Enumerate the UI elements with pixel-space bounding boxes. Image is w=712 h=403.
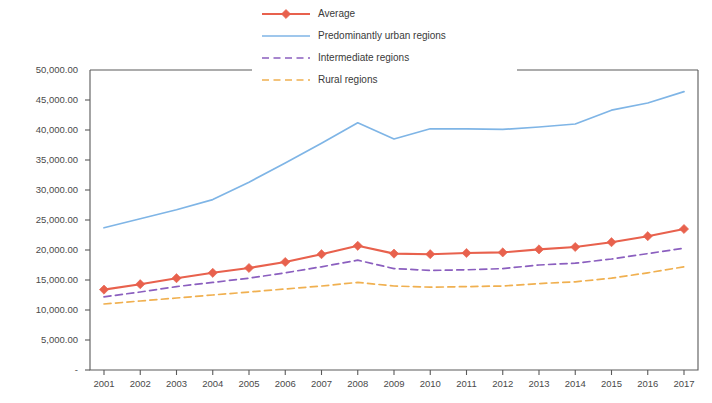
x-tick-label: 2016 xyxy=(637,378,658,389)
y-tick-label: 35,000.00 xyxy=(36,154,78,165)
x-axis-labels: 2001200220032004200520062007200820092010… xyxy=(93,378,694,389)
data-point-marker xyxy=(353,241,362,250)
y-tick-label: 15,000.00 xyxy=(36,274,78,285)
x-tick-label: 2004 xyxy=(202,378,223,389)
x-tick-label: 2011 xyxy=(456,378,476,389)
y-tick-label: 10,000.00 xyxy=(36,304,78,315)
data-point-marker xyxy=(281,257,290,266)
x-tick-label: 2009 xyxy=(383,378,404,389)
data-point-marker xyxy=(317,250,326,259)
y-tick-label: 25,000.00 xyxy=(36,214,78,225)
plot-border xyxy=(90,70,698,370)
y-tick-label: 20,000.00 xyxy=(36,244,78,255)
data-point-marker xyxy=(571,242,580,251)
y-tick-label: 40,000.00 xyxy=(36,124,78,135)
y-tick-label: 50,000.00 xyxy=(36,64,78,75)
data-point-marker xyxy=(99,285,108,294)
data-point-marker xyxy=(389,249,398,258)
x-tick-label: 2015 xyxy=(601,378,622,389)
series-line xyxy=(104,229,684,290)
y-tick-label: 5,000.00 xyxy=(41,334,78,345)
data-point-marker xyxy=(136,280,145,289)
data-point-marker xyxy=(679,224,688,233)
data-point-marker xyxy=(607,238,616,247)
legend-label: Intermediate regions xyxy=(318,52,409,63)
line-chart: -5,000.0010,000.0015,000.0020,000.0025,0… xyxy=(0,0,712,403)
x-tick-label: 2007 xyxy=(311,378,332,389)
x-tick-label: 2003 xyxy=(166,378,187,389)
data-point-marker xyxy=(643,232,652,241)
data-point-marker xyxy=(426,250,435,259)
x-tick-label: 2001 xyxy=(93,378,114,389)
legend-label: Rural regions xyxy=(318,74,377,85)
data-point-marker xyxy=(534,245,543,254)
x-tick-label: 2002 xyxy=(130,378,151,389)
legend-label: Predominantly urban regions xyxy=(318,30,446,41)
x-tick-label: 2010 xyxy=(420,378,441,389)
y-tick-label: - xyxy=(75,364,78,375)
series-average xyxy=(99,224,688,294)
x-tick-label: 2006 xyxy=(275,378,296,389)
x-tick-label: 2013 xyxy=(528,378,549,389)
data-point-marker xyxy=(498,248,507,257)
data-point-marker xyxy=(244,263,253,272)
data-point-marker xyxy=(462,248,471,257)
plot-frame xyxy=(90,70,698,370)
chart-legend: AveragePredominantly urban regionsInterm… xyxy=(252,2,517,100)
x-tick-label: 2008 xyxy=(347,378,368,389)
y-axis-ticks xyxy=(85,100,90,370)
legend-background xyxy=(252,2,517,100)
chart-canvas: -5,000.0010,000.0015,000.0020,000.0025,0… xyxy=(0,0,712,403)
legend-label: Average xyxy=(318,8,356,19)
x-tick-label: 2014 xyxy=(565,378,586,389)
data-point-marker xyxy=(172,274,181,283)
series-layer xyxy=(99,92,688,304)
data-point-marker xyxy=(208,268,217,277)
x-tick-label: 2012 xyxy=(492,378,513,389)
series-line xyxy=(104,92,684,228)
y-tick-label: 45,000.00 xyxy=(36,94,78,105)
x-tick-label: 2005 xyxy=(238,378,259,389)
y-axis-labels: -5,000.0010,000.0015,000.0020,000.0025,0… xyxy=(36,64,78,375)
x-axis-ticks xyxy=(104,370,684,375)
x-tick-label: 2017 xyxy=(673,378,694,389)
series-predominantly-urban-regions xyxy=(104,92,684,228)
y-tick-label: 30,000.00 xyxy=(36,184,78,195)
